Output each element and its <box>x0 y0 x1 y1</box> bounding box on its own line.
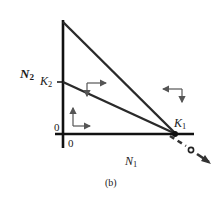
equilibrium-point <box>172 131 178 137</box>
origin-y-label: 0 <box>54 122 60 133</box>
open-point <box>188 147 193 152</box>
diagram-canvas <box>0 0 222 202</box>
y-axis-label: N2 <box>20 67 34 80</box>
vector-arrows-upper-right <box>163 89 182 102</box>
isocline-upper <box>63 22 176 134</box>
isocline-diagram: N2 K2 0 0 K1 N1 (b) <box>0 0 222 202</box>
k2-label: K2 <box>40 75 52 87</box>
origin-x-label: 0 <box>68 138 74 149</box>
dashed-extension <box>170 136 186 146</box>
figure-caption: (b) <box>105 178 117 188</box>
x-axis-label: N1 <box>125 155 137 167</box>
k1-label: K1 <box>174 117 186 129</box>
vector-arrows-origin <box>73 108 90 126</box>
